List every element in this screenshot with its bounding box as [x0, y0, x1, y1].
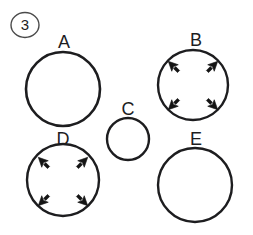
circle-label-b: B	[190, 30, 202, 50]
arrow-north-east-d	[74, 154, 91, 171]
circle-group-e: E	[158, 129, 232, 222]
circle-group-c: C	[107, 99, 149, 160]
circle-outline-c	[107, 118, 149, 160]
figure-number-text: 3	[21, 16, 29, 33]
circle-outline-d	[27, 144, 99, 216]
arrow-set-d	[35, 154, 91, 209]
circle-label-e: E	[190, 129, 202, 149]
arrow-north-west-d	[35, 154, 52, 171]
circle-outline-e	[158, 148, 232, 222]
circle-outline-a	[26, 52, 100, 126]
circles-diagram: 3 A B	[0, 0, 253, 235]
circle-label-a: A	[58, 32, 70, 52]
arrow-set-b	[165, 58, 221, 113]
circle-group-a: A	[26, 32, 100, 126]
circle-group-d: D	[27, 129, 99, 216]
circle-label-d: D	[57, 129, 70, 149]
circle-label-c: C	[122, 99, 135, 119]
circle-group-b: B	[158, 30, 228, 120]
figure-canvas: 3 A B	[0, 0, 253, 235]
figure-number-marker: 3	[11, 13, 39, 38]
